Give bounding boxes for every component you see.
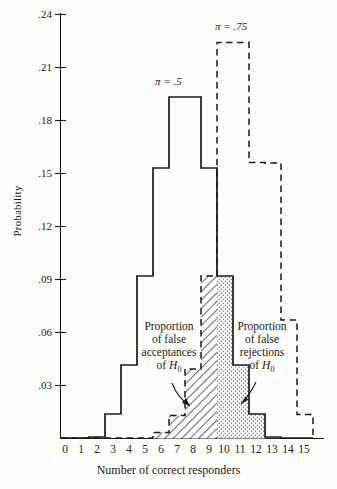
hypothesis-subscript: 0	[270, 365, 274, 374]
ytick-label: .18	[22, 114, 52, 126]
ytick-label: .15	[22, 167, 52, 179]
xtick-label: 13	[264, 443, 280, 455]
ytick-label: .21	[22, 61, 52, 73]
annotation-false-rejections: Proportion of false rejections of H0	[226, 320, 298, 376]
series-label-pi-05: π = .5	[155, 75, 182, 87]
annotation-line: rejections	[226, 346, 298, 359]
hypothesis-subscript: 0	[177, 365, 181, 374]
xtick-label: 5	[137, 443, 153, 455]
ytick-label: .06	[22, 326, 52, 338]
xtick-label: 4	[121, 443, 137, 455]
annotation-false-acceptances: Proportion of false acceptances of H0	[133, 320, 205, 376]
annotation-line: of false	[133, 333, 205, 346]
ytick-label: .24	[22, 8, 52, 20]
xtick-label: 2	[89, 443, 105, 455]
annotation-of: of	[250, 359, 262, 371]
xtick-label: 15	[296, 443, 312, 455]
x-axis-title: Number of correct responders	[0, 463, 337, 478]
annotation-of: of	[157, 359, 169, 371]
y-axis-title: Probability	[11, 166, 23, 256]
annotation-line: Proportion	[133, 320, 205, 333]
ytick-label: .09	[22, 273, 52, 285]
annotation-line: of H0	[133, 359, 205, 376]
ytick-label: .12	[22, 220, 52, 232]
xtick-label: 7	[169, 443, 185, 455]
xtick-label: 1	[73, 443, 89, 455]
xtick-label: 9	[201, 443, 217, 455]
annotation-line: of H0	[226, 359, 298, 376]
xtick-label: 12	[248, 443, 264, 455]
annotation-line: acceptances	[133, 346, 205, 359]
annotation-line: of false	[226, 333, 298, 346]
ytick-label: .03	[22, 379, 52, 391]
xtick-label: 14	[280, 443, 296, 455]
series-label-pi-075: π = .75	[215, 20, 247, 32]
xtick-label: 0	[57, 443, 73, 455]
xtick-label: 11	[232, 443, 248, 455]
probability-distribution-chart	[0, 0, 337, 489]
xtick-label: 6	[153, 443, 169, 455]
xtick-label: 3	[105, 443, 121, 455]
annotation-line: Proportion	[226, 320, 298, 333]
xtick-label: 10	[216, 443, 232, 455]
xtick-label: 8	[185, 443, 201, 455]
